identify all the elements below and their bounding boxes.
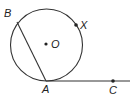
label-b: B: [4, 7, 11, 19]
point-x-dot: [74, 23, 78, 27]
label-o: O: [51, 38, 60, 50]
chord-ba: [17, 22, 46, 81]
point-c-dot: [111, 79, 115, 83]
label-x: X: [79, 19, 88, 31]
label-a: A: [41, 83, 49, 95]
geometry-diagram: B X O A C: [0, 0, 135, 96]
point-o-dot: [44, 42, 47, 45]
label-c: C: [109, 84, 117, 96]
